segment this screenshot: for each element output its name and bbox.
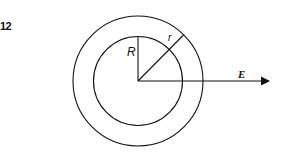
concentric-shell-diagram: R r E	[0, 0, 285, 153]
field-label: E	[237, 68, 245, 80]
field-arrow-head	[261, 77, 270, 86]
inner-radius-label: R	[127, 45, 136, 59]
shell-thickness-label: r	[168, 32, 172, 43]
